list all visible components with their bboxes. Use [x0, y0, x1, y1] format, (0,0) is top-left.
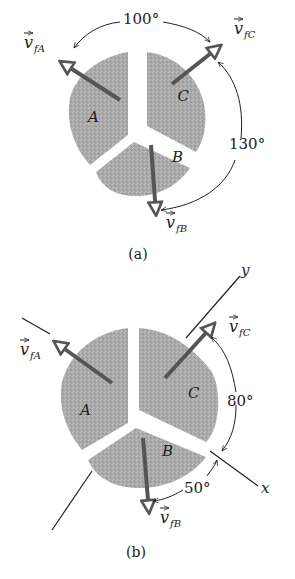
angle-arc-50-right: [207, 460, 217, 476]
vector-label-vfa: v fA: [24, 33, 45, 54]
angle-arc-100: [74, 22, 120, 48]
y-axis-label: y: [240, 261, 250, 279]
piece-c-label: C: [178, 87, 190, 105]
svg-text:v: v: [234, 19, 243, 38]
vector-b-label-vfa: v fA: [20, 340, 41, 361]
vector-b-label-vfb: v fB: [160, 508, 181, 529]
svg-text:v: v: [166, 213, 175, 232]
angle-label-80: 80°: [227, 392, 254, 410]
caption-a: (a): [128, 246, 147, 262]
angle-label-130: 130°: [229, 135, 265, 153]
vector-label-vfc: v fC: [234, 19, 256, 40]
piece-b-b-label: B: [161, 442, 173, 460]
angle-label-50: 50°: [184, 479, 211, 497]
svg-text:v: v: [20, 340, 29, 359]
caption-b: (b): [126, 544, 146, 560]
x-axis-line: [210, 451, 258, 486]
svg-text:fA: fA: [29, 350, 41, 361]
angle-arc-80-bottom: [222, 405, 236, 451]
x-axis-label: x: [261, 479, 270, 497]
vector-label-vfb: v fB: [166, 213, 187, 234]
figure-b: A C B 80° 50° y x v fA v fC v fB: [20, 261, 270, 560]
svg-text:v: v: [24, 33, 33, 52]
svg-text:v: v: [229, 317, 238, 336]
angle-arc-100-right: [163, 22, 210, 42]
piece-b-a: [61, 328, 128, 450]
vfa-extension-line: [22, 318, 50, 334]
svg-text:v: v: [160, 508, 169, 527]
angle-arc-50-left: [153, 490, 183, 501]
figure-a: A C B 100° 130° v fA v fC v fB (a: [24, 10, 265, 262]
svg-text:fC: fC: [243, 29, 256, 40]
angle-label-100: 100°: [123, 10, 159, 28]
piece-b-c: [139, 328, 218, 442]
piece-b-c-label: C: [188, 384, 200, 402]
y-axis-line-lower: [52, 471, 92, 530]
piece-a-label: A: [86, 108, 99, 126]
vector-b-label-vfc: v fC: [229, 317, 251, 338]
angle-arc-130-top: [218, 62, 242, 138]
svg-text:fA: fA: [33, 43, 45, 54]
piece-b-a-label: A: [78, 401, 91, 419]
svg-text:fB: fB: [169, 518, 181, 529]
diagram-canvas: A C B 100° 130° v fA v fC v fB (a: [0, 0, 295, 579]
svg-text:fC: fC: [238, 327, 251, 338]
svg-text:fB: fB: [175, 223, 187, 234]
piece-b-label: B: [171, 148, 183, 166]
